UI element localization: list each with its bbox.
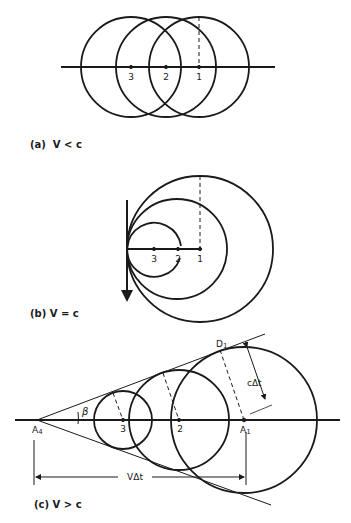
tangent-point-label: D1 [216, 339, 227, 350]
point-label-2: 2 [177, 424, 183, 434]
panel-c [15, 334, 340, 505]
point-label-1: 1 [196, 72, 202, 82]
point-label-3: 3 [120, 424, 126, 434]
c-dt-label: cΔt [247, 378, 262, 388]
point-label-1: 1 [197, 254, 203, 264]
panel-b [127, 176, 273, 322]
c-dt-dimension-line [247, 347, 265, 399]
point-label-3: 3 [128, 72, 134, 82]
point-label-2: 2 [163, 72, 169, 82]
caption-b: (b) V = c [30, 308, 79, 319]
upper-mach-cone-line [37, 334, 265, 420]
point-label-3: 3 [151, 254, 157, 264]
point-label-2: 2 [175, 254, 181, 264]
d1-a1-dashed-line [220, 350, 244, 420]
beta-label: β [81, 406, 89, 417]
panel-a [61, 17, 275, 117]
apex-label: A4 [32, 425, 43, 436]
source-label: A1 [240, 425, 251, 436]
wavefront-diagram: 3 2 1 (a) V < c 3 2 1 (b) V = c [0, 0, 351, 523]
caption-c: (c) V > c [34, 499, 82, 510]
caption-a: (a) V < c [30, 139, 82, 150]
v-dt-label: VΔt [127, 472, 143, 482]
